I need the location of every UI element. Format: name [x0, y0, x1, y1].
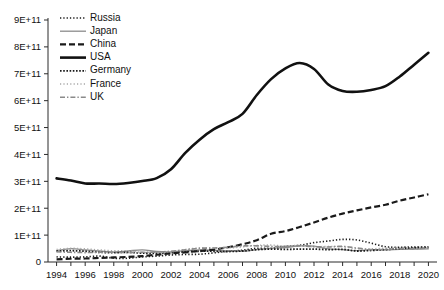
x-tick-label: 2002: [160, 269, 181, 280]
y-tick-label: 6E+11: [14, 95, 41, 106]
y-tick-label: 1E+11: [14, 230, 41, 241]
legend-label-france: France: [90, 78, 122, 89]
y-tick-label: 3E+11: [14, 176, 41, 187]
x-axis-tick-group: 1994199619982000200220042006200820102012…: [46, 262, 439, 280]
legend-label-usa: USA: [90, 51, 111, 62]
y-tick-label: 5E+11: [14, 122, 41, 133]
x-tick-label: 1994: [46, 269, 67, 280]
x-tick-label: 2010: [275, 269, 296, 280]
chart-legend: RussiaJapanChinaUSAGermanyFranceUK: [60, 12, 131, 102]
x-tick-label: 2008: [246, 269, 267, 280]
x-tick-label: 2000: [132, 269, 153, 280]
y-tick-label: 7E+11: [14, 68, 41, 79]
x-tick-label: 1998: [103, 269, 124, 280]
legend-label-uk: UK: [90, 91, 104, 102]
x-tick-label: 2012: [303, 269, 324, 280]
x-tick-label: 2004: [189, 269, 210, 280]
line-chart: 01E+112E+113E+114E+115E+116E+117E+118E+1…: [0, 0, 444, 290]
x-tick-label: 2006: [218, 269, 239, 280]
x-tick-label: 2014: [332, 269, 353, 280]
y-tick-label: 9E+11: [14, 14, 41, 25]
y-tick-label: 0: [36, 256, 41, 267]
y-tick-label: 4E+11: [14, 149, 41, 160]
legend-label-russia: Russia: [90, 12, 121, 23]
legend-label-germany: Germany: [90, 64, 131, 75]
legend-label-china: China: [90, 38, 117, 49]
x-tick-label: 2018: [389, 269, 410, 280]
x-tick-label: 2016: [361, 269, 382, 280]
legend-label-japan: Japan: [90, 25, 117, 36]
x-tick-label: 2020: [418, 269, 439, 280]
y-tick-label: 8E+11: [14, 41, 41, 52]
chart-canvas: 01E+112E+113E+114E+115E+116E+117E+118E+1…: [0, 0, 444, 290]
x-tick-label: 1996: [75, 269, 96, 280]
y-axis-tick-group: 01E+112E+113E+114E+115E+116E+117E+118E+1…: [14, 14, 48, 267]
y-tick-label: 2E+11: [14, 203, 41, 214]
